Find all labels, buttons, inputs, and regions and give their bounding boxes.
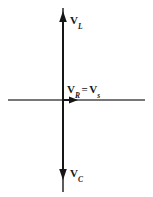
label-vr-subscript: R	[75, 91, 80, 100]
label-vs-symbol: V	[89, 83, 97, 95]
label-vc-symbol: V	[70, 167, 78, 179]
label-vl-subscript: L	[78, 22, 83, 31]
label-vr-symbol: V	[67, 83, 75, 95]
label-vc: VC	[70, 168, 83, 182]
label-vs-subscript: s	[97, 91, 100, 100]
phasor-diagram-figure: VL VR=Vs VC	[0, 0, 153, 197]
label-vl: VL	[70, 15, 83, 29]
label-vl-symbol: V	[70, 14, 78, 26]
vector-vc-arrowhead-icon	[59, 169, 67, 180]
label-vc-subscript: C	[78, 175, 83, 184]
vector-vl-arrowhead-icon	[59, 11, 67, 22]
label-equals-sign: =	[80, 83, 89, 95]
label-vr-equals-vs: VR=Vs	[67, 84, 100, 98]
